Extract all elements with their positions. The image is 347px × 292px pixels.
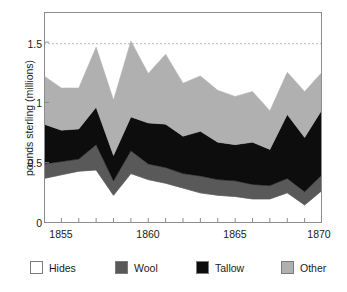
y-tick-label-1.5: 1.5 — [14, 39, 42, 49]
x-tick-label-1860: 1860 — [136, 228, 159, 240]
legend-label-other: Other — [300, 262, 326, 274]
legend-swatch-tallow — [196, 261, 209, 274]
legend-label-tallow: Tallow — [215, 262, 244, 274]
y-axis-tick-labels: 1.5 1 0.5 0 — [8, 0, 42, 292]
stacked-areas — [44, 41, 322, 223]
x-axis-tick-labels: 1855 1860 1865 1870 — [0, 228, 347, 242]
legend-swatch-wool — [115, 261, 128, 274]
y-tick-label-0.5: 0.5 — [14, 158, 42, 168]
y-tick-label-0: 0 — [14, 218, 42, 228]
legend-swatch-other — [281, 261, 294, 274]
x-tick-label-1855: 1855 — [49, 228, 72, 240]
x-tick-label-1865: 1865 — [223, 228, 246, 240]
x-tick-label-1870: 1870 — [307, 228, 330, 240]
legend-item-hides[interactable]: Hides — [30, 261, 76, 274]
legend-label-wool: Wool — [134, 262, 158, 274]
y-tick-label-1: 1 — [14, 98, 42, 108]
legend-item-other[interactable]: Other — [281, 261, 326, 274]
chart-svg — [44, 12, 322, 223]
legend-swatch-hides — [30, 261, 43, 274]
legend-item-tallow[interactable]: Tallow — [196, 261, 244, 274]
chart-legend: Hides Wool Tallow Other — [0, 258, 347, 280]
legend-label-hides: Hides — [49, 262, 76, 274]
plot-area — [44, 12, 322, 223]
stacked-area-chart-figure: pounds sterling (millions) 1.5 1 0.5 0 1… — [0, 0, 347, 292]
legend-item-wool[interactable]: Wool — [115, 261, 158, 274]
